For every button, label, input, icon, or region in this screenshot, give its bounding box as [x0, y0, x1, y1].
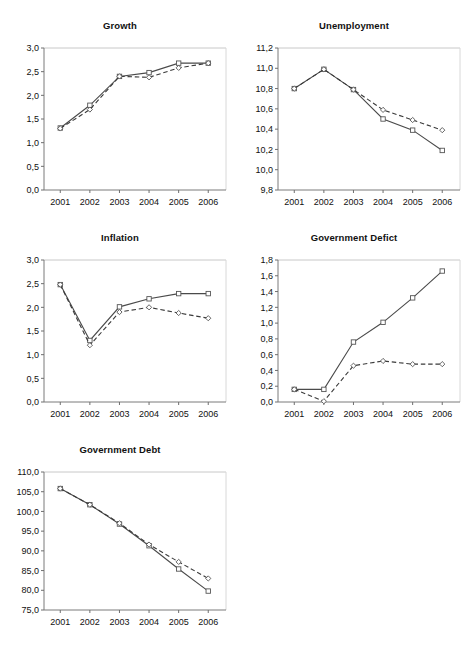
data-point-marker: [410, 296, 414, 300]
data-point-marker: [146, 75, 151, 80]
chart-panel-growth: Growth 0,00,51,01,52,02,53,0200120022003…: [6, 20, 234, 220]
chart-title-government-deficit: Government Defict: [240, 232, 468, 243]
x-tick-label: 2005: [403, 197, 423, 207]
series-line-solid: [60, 285, 208, 341]
chart-panel-inflation: Inflation 0,00,51,01,52,02,53,0200120022…: [6, 232, 234, 432]
data-point-marker: [117, 309, 122, 314]
data-point-marker: [381, 320, 385, 324]
chart-canvas-unemployment: 9,810,010,210,410,610,811,011,2200120022…: [240, 34, 468, 220]
data-point-marker: [322, 387, 326, 391]
data-point-marker: [410, 362, 415, 367]
chart-canvas-growth: 0,00,51,01,52,02,53,02001200220032004200…: [6, 34, 234, 220]
series-line-dashed: [60, 489, 208, 579]
data-point-marker: [176, 65, 181, 70]
x-tick-label: 2003: [343, 409, 363, 419]
y-tick-label: 3,0: [26, 43, 39, 53]
x-tick-label: 2001: [50, 197, 70, 207]
x-tick-label: 2006: [198, 409, 218, 419]
chart-canvas-government-deficit: 0,00,20,40,60,81,01,21,41,61,82001200220…: [240, 246, 468, 432]
data-point-marker: [410, 117, 415, 122]
y-tick-label: 10,6: [255, 104, 273, 114]
y-tick-label: 11,2: [256, 43, 273, 53]
data-point-marker: [381, 117, 385, 121]
y-tick-label: 90,0: [21, 546, 39, 556]
y-tick-label: 1,2: [260, 303, 273, 313]
x-tick-label: 2002: [80, 617, 100, 627]
y-tick-label: 3,0: [26, 255, 39, 265]
chart-panel-unemployment: Unemployment 9,810,010,210,410,610,811,0…: [240, 20, 468, 220]
y-tick-label: 1,0: [26, 138, 39, 148]
data-point-marker: [176, 291, 180, 295]
y-tick-label: 1,5: [26, 114, 39, 124]
y-tick-label: 10,0: [255, 165, 273, 175]
y-tick-label: 1,5: [26, 326, 39, 336]
data-point-marker: [206, 316, 211, 321]
x-tick-label: 2005: [169, 197, 189, 207]
y-tick-label: 110,0: [17, 467, 39, 477]
x-tick-label: 2005: [403, 409, 423, 419]
chart-title-inflation: Inflation: [6, 232, 234, 243]
x-tick-label: 2003: [109, 617, 129, 627]
data-point-marker: [321, 399, 326, 404]
x-tick-label: 2006: [432, 197, 452, 207]
y-tick-label: 105,0: [16, 487, 39, 497]
x-tick-label: 2004: [373, 409, 393, 419]
data-point-marker: [440, 128, 445, 133]
chart-canvas-government-debt: 75,080,085,090,095,0100,0105,0110,020012…: [6, 458, 234, 640]
series-line-solid: [60, 489, 208, 592]
x-tick-label: 2004: [373, 197, 393, 207]
y-tick-label: 80,0: [21, 585, 39, 595]
y-tick-label: 10,8: [255, 84, 273, 94]
series-line-dashed: [294, 69, 442, 130]
y-tick-label: 0,2: [260, 381, 273, 391]
x-tick-label: 2003: [109, 197, 129, 207]
y-tick-label: 0,0: [26, 185, 39, 195]
x-tick-label: 2006: [198, 197, 218, 207]
y-tick-label: 1,8: [260, 255, 273, 265]
x-tick-label: 2001: [50, 617, 70, 627]
data-point-marker: [206, 576, 211, 581]
y-tick-label: 1,4: [260, 287, 273, 297]
data-point-marker: [147, 297, 151, 301]
data-point-marker: [176, 567, 180, 571]
series-line-dashed: [60, 63, 208, 128]
data-point-marker: [440, 148, 444, 152]
y-tick-label: 1,0: [26, 350, 39, 360]
y-tick-label: 10,4: [255, 124, 273, 134]
data-point-marker: [117, 305, 121, 309]
y-tick-label: 9,8: [260, 185, 273, 195]
x-tick-label: 2004: [139, 409, 159, 419]
chart-title-growth: Growth: [6, 20, 234, 31]
x-tick-label: 2003: [343, 197, 363, 207]
y-tick-label: 1,6: [260, 271, 273, 281]
x-tick-label: 2004: [139, 617, 159, 627]
y-tick-label: 2,5: [26, 67, 39, 77]
y-tick-label: 0,5: [26, 374, 39, 384]
data-point-marker: [206, 291, 210, 295]
x-tick-label: 2004: [139, 197, 159, 207]
data-point-marker: [440, 269, 444, 273]
y-tick-label: 0,0: [26, 397, 39, 407]
y-tick-label: 95,0: [21, 526, 39, 536]
y-tick-label: 2,0: [26, 91, 39, 101]
y-tick-label: 2,0: [26, 303, 39, 313]
data-point-marker: [351, 340, 355, 344]
data-point-marker: [440, 362, 445, 367]
x-tick-label: 2001: [284, 197, 304, 207]
x-tick-label: 2005: [169, 617, 189, 627]
y-tick-label: 0,6: [260, 350, 273, 360]
series-line-solid: [294, 271, 442, 389]
y-tick-label: 11,0: [256, 63, 273, 73]
data-point-marker: [176, 559, 181, 564]
x-tick-label: 2001: [50, 409, 70, 419]
y-tick-label: 85,0: [21, 566, 39, 576]
x-tick-label: 2003: [109, 409, 129, 419]
y-tick-label: 0,0: [260, 397, 273, 407]
x-tick-label: 2005: [169, 409, 189, 419]
chart-panel-government-deficit: Government Defict 0,00,20,40,60,81,01,21…: [240, 232, 468, 432]
y-tick-label: 75,0: [21, 605, 39, 615]
x-tick-label: 2006: [198, 617, 218, 627]
data-point-marker: [410, 128, 414, 132]
y-tick-label: 100,0: [16, 507, 39, 517]
y-tick-label: 1,0: [260, 318, 273, 328]
